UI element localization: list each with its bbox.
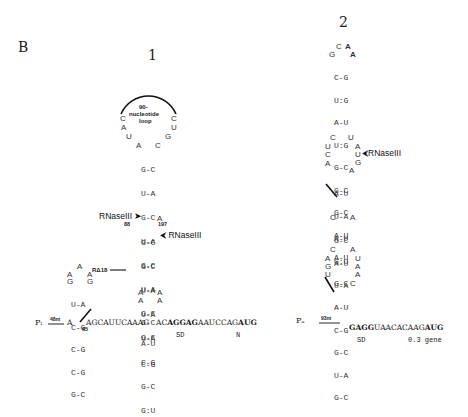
nucleotide: C <box>330 214 336 222</box>
rnase-label-left: RNaseIII ➤ <box>99 212 142 221</box>
nucleotide: A <box>350 214 355 222</box>
spacer-label: 48nt <box>50 317 60 322</box>
base-pair: C-G <box>141 361 160 368</box>
base-pair: G-C <box>141 263 160 271</box>
base-pair: G-C <box>334 394 353 402</box>
sd-sequence: AGGAG <box>167 318 198 327</box>
base-pair: U-A <box>71 301 90 309</box>
sequence-start: A <box>67 319 72 327</box>
nucleotide: G <box>355 159 361 167</box>
gene-label: N <box>236 332 240 339</box>
start-codon: AUG <box>238 318 257 327</box>
sd-label: SD <box>176 332 184 339</box>
rnase-label-right: ⮜ RNaseIII <box>160 231 201 240</box>
rnase-text: RNaseIII <box>368 148 401 158</box>
rnase-text: RNaseIII <box>168 230 201 240</box>
nucleotide: C <box>120 115 126 123</box>
rnase-text: RNaseIII <box>99 211 132 221</box>
loop-label-line1: 90- <box>139 104 148 110</box>
base-pair: G-C <box>71 391 90 399</box>
base-pair: U-A <box>141 190 160 198</box>
nucleotide: A <box>136 142 141 150</box>
position-65: 65 <box>82 327 88 333</box>
nucleotide: C <box>336 43 342 51</box>
base-pair: C-G <box>71 369 90 377</box>
gene-label: 0.3 gene <box>408 337 442 344</box>
nucleotide: U <box>126 133 132 141</box>
sequence-3prime: GAGGUAACACAAGAUG <box>349 324 443 332</box>
base-pair: G-C <box>334 237 353 245</box>
start-codon: AUG <box>425 323 444 332</box>
nucleotide: A <box>157 297 162 305</box>
position-197: 197 <box>158 222 167 228</box>
hairpin-small-stem: U-A C-G C-G C-G G-C <box>71 286 90 414</box>
base-pair: U:G <box>334 97 353 105</box>
nucleotide: A <box>349 167 354 175</box>
base-pair: G-C <box>141 166 160 174</box>
nucleotide: C <box>330 246 336 254</box>
nucleotide: U <box>348 134 354 142</box>
nucleotide: C <box>171 115 177 123</box>
sd-sequence: GAGG <box>349 323 374 332</box>
base-pair: U-A <box>334 372 353 380</box>
arrow-right-icon: ➤ <box>132 211 142 221</box>
promoter-label: Pₗ <box>35 319 42 327</box>
base-pair: A-U <box>141 340 160 347</box>
deletion-label: RΔ18 <box>92 267 107 273</box>
stem-lower: G-C A-U C-G <box>141 305 160 382</box>
structure-2-title: 2 <box>339 15 348 29</box>
base-pair: G-C <box>141 383 160 391</box>
promoter-label: Pₐ <box>296 317 304 325</box>
nucleotide: A <box>350 246 355 254</box>
nucleotide: A <box>325 160 330 168</box>
nucleotide: A <box>138 297 143 305</box>
sd-label: SD <box>357 337 365 344</box>
base-pair: A-U <box>334 260 353 268</box>
nucleotide: U <box>325 271 331 279</box>
sequence-3prime: ACAGGAGAAUCCAGAUG <box>156 319 257 327</box>
base-pair: A-U <box>334 119 353 127</box>
position-88: 88 <box>124 222 130 228</box>
nucleotide: A <box>355 271 360 279</box>
nucleotide: G <box>87 278 93 286</box>
nucleotide: C <box>155 142 161 150</box>
nucleotide: C <box>350 280 356 288</box>
base-pair: A-U <box>334 190 353 198</box>
nucleotide: G <box>329 51 335 59</box>
nucleotide: A <box>350 51 356 59</box>
base-pair: A-U <box>334 304 353 312</box>
nucleotide: A <box>121 124 126 132</box>
base-pair: C-G <box>334 74 353 82</box>
nucleotide: G <box>165 133 171 141</box>
base-pair: C-G <box>71 346 90 354</box>
base-pair: G:U <box>141 407 160 415</box>
nucleotide: U <box>171 124 177 132</box>
stem-bottom: A-U C-G G-C U-A G-C <box>334 289 353 417</box>
base-pair: G-C <box>141 239 160 247</box>
loop-label-line3: loop <box>139 118 152 124</box>
nucleotide: A <box>77 263 82 271</box>
sequence-linker: AGCAUUCAAAG <box>86 319 149 327</box>
loop-label-line2: nucleotide <box>129 111 159 117</box>
base-pair: G-C <box>334 349 353 357</box>
pre-sd: AC <box>156 318 167 327</box>
nucleotide: C <box>325 151 331 159</box>
rnase-label: ⮜RNaseIII <box>362 149 401 158</box>
spacer-label: 93nt <box>321 316 331 321</box>
nucleotide: G <box>67 278 73 286</box>
spacer-sequence: UAACACAAG <box>374 323 425 332</box>
nucleotide: C <box>330 134 336 142</box>
spacer-sequence: AAUCCAG <box>198 318 238 327</box>
base-pair: U:G <box>334 142 353 150</box>
